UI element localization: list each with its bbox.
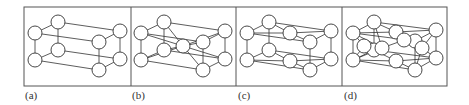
atom bbox=[303, 63, 317, 77]
atom bbox=[51, 43, 65, 57]
atom bbox=[240, 53, 254, 67]
bond-line bbox=[35, 33, 99, 42]
atom bbox=[303, 35, 317, 49]
panel-b bbox=[134, 7, 236, 86]
atom bbox=[346, 26, 360, 40]
atom bbox=[346, 53, 360, 67]
atoms bbox=[28, 15, 127, 77]
atom bbox=[51, 15, 65, 29]
atom bbox=[367, 15, 381, 29]
bond-line bbox=[141, 33, 203, 42]
atom bbox=[157, 15, 171, 29]
atom bbox=[196, 63, 210, 77]
atom bbox=[176, 39, 190, 53]
bond-line bbox=[58, 22, 120, 31]
atom bbox=[240, 26, 254, 40]
panel-label-a: (a) bbox=[25, 89, 37, 101]
atom bbox=[324, 52, 338, 66]
bond-line bbox=[164, 50, 225, 59]
bond-line bbox=[247, 60, 310, 70]
atom bbox=[113, 24, 127, 38]
panel-c bbox=[240, 7, 342, 86]
atom bbox=[283, 26, 297, 40]
bond-line bbox=[58, 50, 120, 59]
atom bbox=[28, 53, 42, 67]
atom bbox=[134, 53, 148, 67]
bond-line bbox=[141, 60, 203, 70]
panel-a bbox=[28, 7, 131, 86]
atom bbox=[408, 63, 422, 77]
atom bbox=[262, 15, 276, 29]
atom bbox=[429, 23, 443, 37]
atom bbox=[92, 35, 106, 49]
panel-label-b: (b) bbox=[132, 89, 145, 101]
atom bbox=[283, 54, 297, 68]
atom bbox=[429, 51, 443, 65]
panel-label-c: (c) bbox=[238, 89, 250, 101]
bonds bbox=[35, 22, 120, 70]
atom bbox=[92, 63, 106, 77]
bond-line bbox=[353, 60, 415, 70]
atom bbox=[218, 24, 232, 38]
bond-line bbox=[164, 22, 225, 31]
atom bbox=[28, 26, 42, 40]
atom bbox=[196, 35, 210, 49]
atom bbox=[375, 41, 389, 55]
atom bbox=[324, 24, 338, 38]
atom bbox=[415, 41, 429, 55]
atom bbox=[218, 52, 232, 66]
atom bbox=[397, 33, 411, 47]
bond-line bbox=[35, 60, 99, 70]
atom bbox=[134, 26, 148, 40]
atom bbox=[113, 52, 127, 66]
atom bbox=[262, 43, 276, 57]
panel-d bbox=[346, 15, 443, 77]
crystal-structure-figure bbox=[0, 0, 469, 105]
atoms bbox=[134, 15, 232, 77]
panel-label-d: (d) bbox=[344, 89, 357, 101]
atom bbox=[389, 54, 403, 68]
atoms bbox=[240, 15, 338, 77]
atom bbox=[157, 43, 171, 57]
atom bbox=[357, 39, 371, 53]
